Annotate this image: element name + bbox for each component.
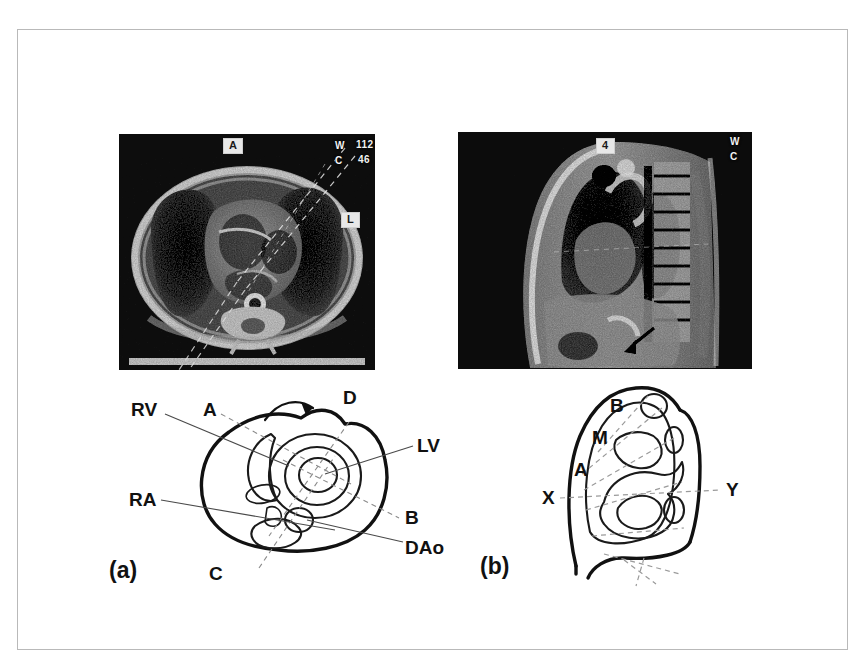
panel-a-label-rv: RV: [131, 399, 157, 420]
panel-a-label-dao: DAo: [405, 537, 444, 558]
panel-a-label-a: A: [203, 399, 217, 420]
panel-a-rv-cavity: [248, 434, 277, 501]
panel-b-caption: (b): [480, 553, 509, 579]
figure-frame: A L W 112 C 46: [17, 29, 848, 650]
panel-a-label-lv: LV: [417, 435, 440, 456]
panel-a-label-b: B: [405, 507, 419, 528]
panel-b-graphic: B M A X Y (b): [458, 378, 758, 593]
panel-b-label-a: A: [574, 459, 588, 480]
axial-scan-graphic: [119, 134, 375, 370]
panel-b-label-b: B: [610, 395, 624, 416]
axial-chest-mri-image: A L W 112 C 46: [119, 134, 375, 370]
sagittal-scan-graphic: [458, 132, 752, 369]
panel-a-vessel: [265, 507, 281, 527]
panel-b-label-y: Y: [726, 479, 739, 500]
sagittal-chest-mri-image: 4 W C: [458, 132, 752, 369]
panel-b-lung-outline: [586, 403, 674, 544]
panel-a-thorax-outline: [201, 410, 387, 551]
panel-b-label-m: M: [592, 427, 608, 448]
panel-b-lv-cavity: [617, 496, 661, 529]
panel-a-lv-leader: [325, 446, 413, 474]
panel-b-diaphragm: [576, 542, 690, 578]
panel-a-label-ra: RA: [129, 489, 157, 510]
panel-a-lv-cavity: [299, 458, 337, 492]
panel-a-label-d: D: [343, 387, 357, 408]
panel-a-lv-myocardium: [285, 447, 349, 505]
panel-b-schematic: B M A X Y (b): [458, 378, 758, 593]
panel-a-label-c: C: [209, 563, 223, 584]
panel-a-caption: (a): [109, 557, 137, 583]
panel-b-label-x: X: [542, 487, 555, 508]
panel-b-great-vessel: [614, 432, 661, 468]
panel-a-graphic: RV A D LV RA B DAo C (a): [103, 378, 463, 593]
panel-a-schematic: RV A D LV RA B DAo C (a): [103, 378, 463, 593]
